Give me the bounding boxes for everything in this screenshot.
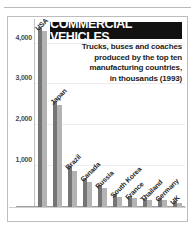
- bar-light-uk: [177, 203, 182, 207]
- bar-light-france: [132, 198, 137, 207]
- top-divider-rule: [4, 7, 191, 8]
- y-tick-label-4000: 4,000: [15, 33, 32, 40]
- bar-light-russia: [102, 188, 107, 207]
- bar-light-thailand: [147, 200, 152, 207]
- chart-subtitle: Trucks, buses and coachesproduced by the…: [54, 42, 182, 84]
- title-banner: COMMERCIAL VEHICLES: [50, 22, 182, 39]
- subtitle-line-3: in thousands (1993): [54, 74, 182, 85]
- chart-footer-strip: [9, 207, 186, 221]
- subtitle-line-0: Trucks, buses and coaches: [54, 42, 182, 53]
- subtitle-line-2: manufacturing countries,: [54, 63, 182, 74]
- y-tick-label-3000: 3,000: [15, 74, 32, 81]
- bar-group-usa: [38, 19, 47, 207]
- bar-light-japan: [57, 105, 62, 207]
- y-tick-label-2000: 2,000: [15, 115, 32, 122]
- y-tick-label-1000: 1,000: [15, 156, 32, 163]
- bar-light-south-korea: [117, 197, 122, 207]
- bar-light-usa: [42, 31, 47, 207]
- bar-light-canada: [87, 182, 92, 207]
- page-title: COMMERCIAL VEHICLES: [50, 18, 182, 43]
- infographic-root: 1,0002,0003,0004,000 USAJapanBrazilCanad…: [0, 0, 195, 228]
- bar-light-germany: [162, 200, 167, 207]
- bar-light-brazil: [72, 171, 77, 207]
- subtitle-line-1: produced by the top ten: [54, 53, 182, 64]
